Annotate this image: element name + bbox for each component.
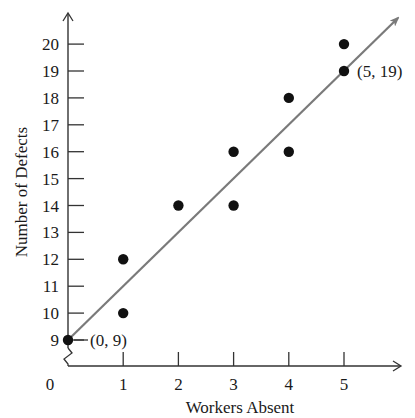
- y-tick-label: 17: [42, 116, 60, 135]
- regression-line: [68, 18, 398, 340]
- x-tick-label: 3: [229, 375, 238, 394]
- x-tick-label: 2: [174, 375, 183, 394]
- y-tick-label: 9: [51, 331, 60, 350]
- axis-break-icon: [64, 348, 72, 366]
- data-point: [339, 39, 349, 49]
- annotation-origin-point: (0, 9): [90, 331, 127, 350]
- origin-label: 0: [46, 375, 55, 394]
- y-tick-label: 11: [43, 277, 59, 296]
- x-tick-label: 4: [285, 375, 294, 394]
- data-point: [228, 200, 238, 210]
- data-point: [118, 254, 128, 264]
- data-points: [63, 39, 349, 345]
- data-point: [118, 308, 128, 318]
- y-axis-title: Number of Defects: [12, 127, 31, 257]
- annotation-end-point: (5, 19): [357, 62, 402, 81]
- y-tick-label: 13: [42, 223, 59, 242]
- y-tick-label: 19: [42, 62, 59, 81]
- scatter-chart: 91011121314151617181920123450 (0, 9)(5, …: [0, 0, 415, 418]
- y-tick-label: 18: [42, 89, 59, 108]
- data-point: [339, 66, 349, 76]
- trend-line: [68, 18, 398, 340]
- axes: [63, 13, 401, 371]
- y-tick-label: 12: [42, 250, 59, 269]
- data-point: [173, 200, 183, 210]
- x-tick-label: 5: [340, 375, 349, 394]
- data-point: [284, 93, 294, 103]
- y-tick-label: 20: [42, 35, 59, 54]
- data-point: [63, 335, 73, 345]
- data-point: [228, 147, 238, 157]
- y-tick-label: 15: [42, 170, 59, 189]
- y-tick-label: 16: [42, 143, 59, 162]
- y-tick-label: 10: [42, 304, 59, 323]
- x-axis-title: Workers Absent: [186, 398, 295, 417]
- data-point: [284, 147, 294, 157]
- y-tick-label: 14: [42, 197, 60, 216]
- x-tick-label: 1: [119, 375, 128, 394]
